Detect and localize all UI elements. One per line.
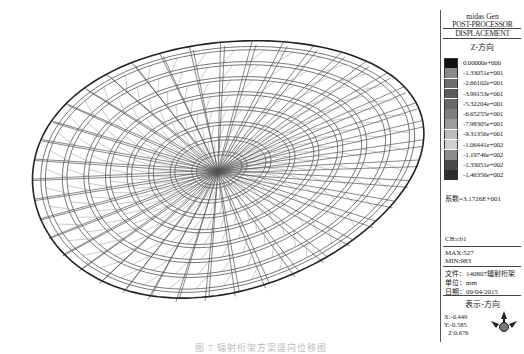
scale-swatch bbox=[444, 79, 458, 89]
component-label: Z-方向 bbox=[441, 41, 524, 52]
max-label: MAX:527 bbox=[445, 249, 474, 257]
scale-row: -5.32204e+001 bbox=[444, 99, 503, 109]
scale-swatch bbox=[444, 68, 458, 78]
scale-value: -5.32204e+001 bbox=[463, 100, 503, 108]
legend-panel: midas Gen POST-PROCESSOR DISPLACEMENT Z-… bbox=[441, 0, 524, 352]
scale-swatch bbox=[444, 160, 458, 170]
scale-value: -1.06441e+002 bbox=[463, 141, 503, 149]
scale-value: -1.33051e+001 bbox=[463, 69, 503, 77]
scale-value: -7.98305e+001 bbox=[463, 120, 503, 128]
divider bbox=[443, 266, 521, 267]
scale-swatch bbox=[444, 109, 458, 119]
load-case-label: CB:cb1 bbox=[445, 235, 466, 243]
scale-row: -3.99153e+001 bbox=[444, 89, 503, 99]
scale-value: -1.33051e+002 bbox=[463, 161, 503, 169]
divider bbox=[443, 295, 521, 296]
scale-value: -1.19746e+002 bbox=[463, 151, 503, 159]
scale-swatch bbox=[444, 58, 458, 69]
scale-swatch bbox=[444, 130, 458, 140]
divider bbox=[443, 38, 521, 39]
scale-row: -9.31356e+001 bbox=[444, 129, 503, 139]
view-x: X:-0.449 bbox=[444, 313, 467, 320]
scale-value: -1.46356e+002 bbox=[463, 171, 503, 179]
scale-row: -6.65255e+001 bbox=[444, 109, 503, 119]
min-label: MIN:983 bbox=[445, 257, 471, 265]
scale-row: -2.66102e+001 bbox=[444, 78, 503, 88]
scale-factor: 系数=3.1726E+001 bbox=[445, 193, 501, 203]
view-y: Y:-0.585 bbox=[444, 321, 467, 328]
scale-swatch bbox=[444, 99, 458, 109]
scale-row: -1.33051e+001 bbox=[444, 68, 503, 78]
scale-swatch bbox=[444, 89, 458, 99]
scale-value: -3.99153e+001 bbox=[463, 90, 503, 98]
scale-row: -1.06441e+002 bbox=[444, 140, 503, 150]
scale-row: -1.19746e+002 bbox=[444, 150, 503, 160]
divider bbox=[443, 246, 521, 247]
scale-swatch bbox=[444, 140, 458, 150]
view-direction-title: 表示-方向 bbox=[441, 298, 524, 309]
result-type-label: DISPLACEMENT bbox=[441, 29, 524, 38]
scale-swatch bbox=[444, 170, 458, 181]
scale-value: 0.00000e+000 bbox=[463, 59, 501, 67]
scale-row: 0.00000e+000 bbox=[444, 58, 501, 68]
scale-row: -1.33051e+002 bbox=[444, 160, 503, 170]
scale-value: -9.31356e+001 bbox=[463, 130, 503, 138]
scale-row: -7.98305e+001 bbox=[444, 119, 503, 129]
view-z: Z:0.676 bbox=[448, 329, 468, 336]
scale-value: -6.65255e+001 bbox=[463, 110, 503, 118]
scale-value: -2.66102e+001 bbox=[463, 79, 503, 87]
scale-row: -1.46356e+002 bbox=[444, 170, 503, 180]
scale-swatch bbox=[444, 150, 458, 160]
view-direction-triad-icon bbox=[491, 311, 517, 335]
truss-model-view[interactable] bbox=[0, 0, 438, 340]
figure-caption: 图 7 辐射桁架方案竖向位移图 bbox=[195, 341, 327, 354]
scale-swatch bbox=[444, 119, 458, 129]
